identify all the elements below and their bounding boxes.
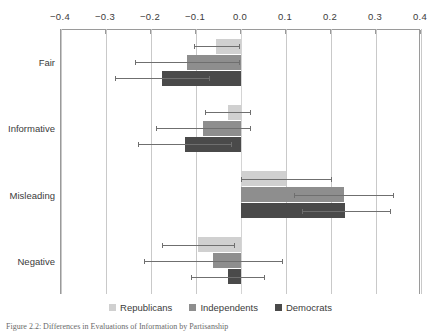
x-axis-tick-label: 0.1 (278, 11, 292, 22)
error-bar-cap (194, 44, 195, 49)
error-bar-cap (294, 193, 295, 198)
error-bar-cap (250, 110, 251, 115)
error-bar-cap (264, 275, 265, 280)
legend-label: Independents (200, 302, 258, 313)
error-bar-cap (231, 142, 232, 147)
error-bar (294, 195, 393, 196)
error-bar-cap (331, 177, 332, 182)
grid-line (106, 29, 107, 294)
x-axis-tick-label: −0.4 (50, 11, 70, 22)
grid-line (241, 29, 242, 294)
plot-area (60, 29, 420, 294)
legend-item[interactable]: Independents (189, 302, 258, 313)
figure-caption: Figure 2.2: Differences in Evaluations o… (6, 322, 436, 331)
error-bar-cap (205, 110, 206, 115)
legend-label: Republicans (120, 302, 172, 313)
error-bar-cap (191, 275, 192, 280)
error-bar (205, 112, 250, 113)
legend-swatch-icon (109, 304, 116, 311)
error-bar-cap (138, 142, 139, 147)
y-axis-labels: FairInformativeMisleadingNegative (0, 29, 55, 294)
error-bar (191, 277, 265, 278)
x-axis-tick-label: −0.3 (95, 11, 115, 22)
legend-swatch-icon (275, 304, 282, 311)
x-axis-tick-label: −0.2 (140, 11, 160, 22)
grid-line (421, 29, 422, 294)
legend-item[interactable]: Republicans (109, 302, 172, 313)
legend-swatch-icon (189, 304, 196, 311)
grid-line (331, 29, 332, 294)
error-bar-cap (282, 259, 283, 264)
grid-line (61, 29, 62, 294)
error-bar (194, 46, 239, 47)
error-bar-cap (390, 209, 391, 214)
y-axis-category-label: Fair (39, 57, 55, 68)
error-bar (162, 245, 234, 246)
error-bar-cap (162, 243, 163, 248)
x-axis-tick-label: −0.1 (185, 11, 205, 22)
error-bar-cap (156, 126, 157, 131)
error-bar (115, 78, 209, 79)
y-axis-category-label: Misleading (10, 189, 55, 200)
error-bar-cap (241, 177, 242, 182)
error-bar-cap (250, 126, 251, 131)
legend-label: Democrats (286, 302, 332, 313)
error-bar-cap (302, 209, 303, 214)
error-bar (138, 144, 232, 145)
error-bar (144, 261, 281, 262)
error-bar-cap (239, 60, 240, 65)
error-bar-cap (209, 76, 210, 81)
error-bar (302, 211, 390, 212)
error-bar-cap (135, 60, 136, 65)
error-bar (156, 128, 251, 129)
x-axis-tick-label: 0.2 (323, 11, 337, 22)
y-axis-category-label: Informative (8, 123, 55, 134)
error-bar-cap (393, 193, 394, 198)
grid-line (286, 29, 287, 294)
y-axis-category-label: Negative (18, 255, 56, 266)
chart-legend: RepublicansIndependentsDemocrats (0, 302, 441, 313)
error-bar (135, 62, 239, 63)
error-bar-cap (144, 259, 145, 264)
error-bar-cap (239, 44, 240, 49)
legend-item[interactable]: Democrats (275, 302, 332, 313)
grid-line (151, 29, 152, 294)
x-axis-tick-label: 0.0 (233, 11, 247, 22)
error-bar (241, 179, 331, 180)
grid-line (376, 29, 377, 294)
error-bar-cap (234, 243, 235, 248)
x-axis-tick-label: 0.4 (413, 11, 427, 22)
chart-container: FairInformativeMisleadingNegative −0.4−0… (0, 0, 441, 333)
error-bar-cap (115, 76, 116, 81)
x-axis-tick-label: 0.3 (368, 11, 382, 22)
